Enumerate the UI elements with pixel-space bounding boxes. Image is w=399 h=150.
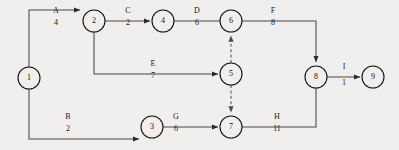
node-label-2: 2 [92, 16, 96, 25]
edge-label-name-G: G [173, 112, 179, 121]
node-label-3: 3 [150, 122, 154, 131]
node-9[interactable]: 9 [362, 66, 384, 88]
network-diagram-canvas: A4C2D6F8E7B2G6H11I1 123456789 [0, 0, 399, 150]
node-7[interactable]: 7 [220, 116, 242, 138]
node-6[interactable]: 6 [220, 10, 242, 32]
edge-label-name-D: D [194, 6, 200, 15]
node-label-8: 8 [314, 72, 318, 81]
node-2[interactable]: 2 [83, 10, 105, 32]
node-3[interactable]: 3 [141, 116, 163, 138]
edge-label-duration-A: 4 [54, 18, 58, 27]
node-1[interactable]: 1 [18, 67, 40, 89]
edge-label-name-E: E [151, 59, 156, 68]
edge-B [29, 89, 139, 139]
edge-label-duration-B: 2 [66, 124, 70, 133]
node-label-5: 5 [229, 69, 233, 78]
node-8[interactable]: 8 [305, 66, 327, 88]
edge-label-name-H: H [274, 112, 280, 121]
node-label-1: 1 [27, 73, 31, 82]
edge-label-name-F: F [271, 6, 276, 15]
node-4[interactable]: 4 [152, 10, 174, 32]
edge-label-duration-E: 7 [151, 71, 155, 80]
edge-label-name-C: C [125, 6, 130, 15]
edge-label-name-I: I [343, 62, 346, 71]
edge-E [94, 32, 218, 74]
edge-label-duration-D: 6 [195, 18, 199, 27]
edge-label-name-A: A [53, 6, 59, 15]
node-label-7: 7 [229, 122, 233, 131]
node-label-4: 4 [161, 16, 165, 25]
edge-H [242, 88, 316, 127]
edge-label-duration-G: 6 [174, 124, 178, 133]
edge-label-name-B: B [65, 112, 70, 121]
edge-label-duration-C: 2 [126, 18, 130, 27]
node-label-6: 6 [229, 16, 233, 25]
edge-label-duration-F: 8 [271, 18, 275, 27]
node-5[interactable]: 5 [220, 63, 242, 85]
network-diagram-svg: A4C2D6F8E7B2G6H11I1 123456789 [0, 0, 399, 150]
edge-label-duration-I: 1 [342, 78, 346, 87]
edge-label-duration-H: 11 [273, 124, 281, 133]
edge-F [242, 21, 316, 62]
node-label-9: 9 [371, 72, 375, 81]
